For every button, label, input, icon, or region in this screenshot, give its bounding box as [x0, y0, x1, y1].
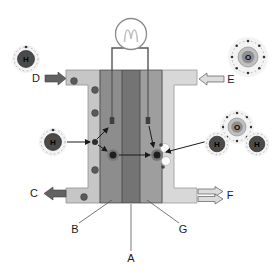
label-e: E — [227, 73, 234, 85]
oxygen-atom-top-right: O — [228, 37, 268, 77]
outlet-arrow-f2 — [198, 194, 223, 204]
hydrogen-atom-top-left: H — [12, 45, 40, 73]
leader-line-b — [79, 200, 112, 223]
hydrogen-symbol: H — [50, 138, 56, 147]
water-molecule: O H H — [205, 110, 270, 157]
outlet-arrow-c — [44, 187, 66, 200]
membrane — [122, 70, 140, 203]
hydrogen-symbol: H — [214, 140, 220, 149]
hydrogen-symbol: H — [254, 140, 260, 149]
oxygen-particle — [161, 165, 165, 169]
right-flow-channel — [162, 70, 197, 203]
outlet-arrow-f1 — [198, 187, 223, 197]
leader-line-g — [147, 200, 179, 223]
inlet-arrow-d — [45, 72, 66, 85]
inlet-arrow-e — [199, 73, 224, 85]
label-c: C — [30, 187, 38, 199]
diagram-canvas: H O H O — [0, 0, 280, 280]
proton-dot-left — [110, 152, 117, 159]
light-bulb-icon — [116, 19, 147, 50]
cathode-terminal — [146, 117, 151, 124]
forming-water-bubble — [162, 157, 171, 166]
hydrogen-symbol: H — [23, 55, 29, 64]
fuel-cell-diagram: H O H O — [0, 0, 280, 280]
anode-terminal — [110, 117, 115, 124]
oxygen-symbol: O — [245, 53, 251, 62]
label-b: B — [71, 223, 78, 235]
oxygen-particle — [159, 143, 163, 147]
proton-dot-right — [154, 152, 161, 159]
label-f: F — [227, 189, 234, 201]
label-a: A — [127, 252, 135, 264]
anode-electrode — [100, 70, 122, 203]
reaction-entry-dot — [92, 139, 98, 145]
oxygen-symbol: O — [234, 123, 240, 132]
hydrogen-atom-middle-left: H — [39, 128, 67, 156]
label-d: D — [32, 72, 40, 84]
label-g: G — [179, 223, 188, 235]
